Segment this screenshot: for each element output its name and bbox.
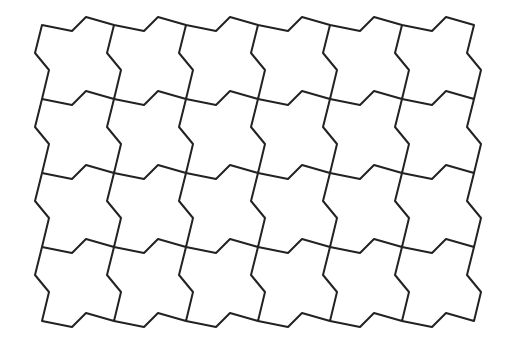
tessellation-figure [0,0,511,348]
tile-outlines [35,17,481,327]
tile-pattern [0,0,511,348]
